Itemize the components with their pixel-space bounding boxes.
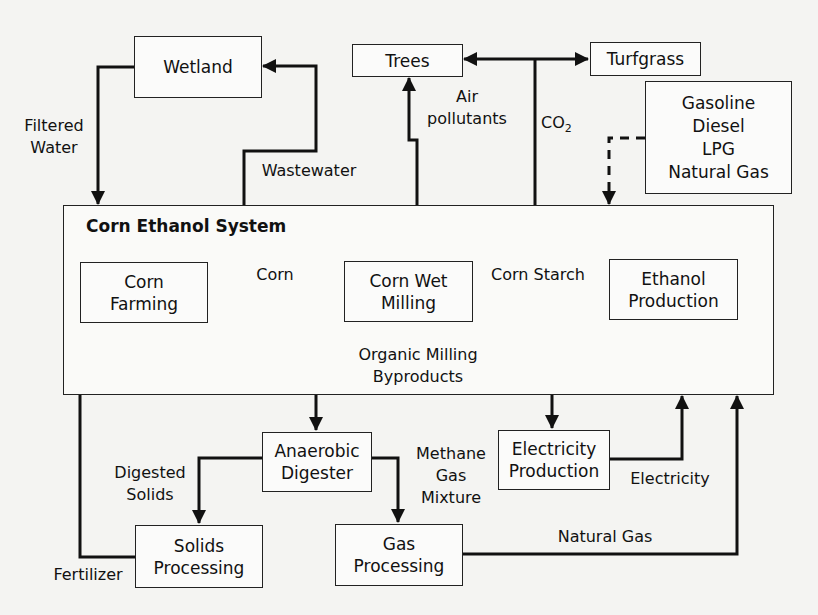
edge-label-filtered-water: Filtered Water [18, 115, 90, 159]
edge-label-co2: CO2 [541, 112, 581, 140]
node-ethanol-production: Ethanol Production [609, 259, 738, 320]
edge-label-corn: Corn [245, 264, 305, 286]
edge-label-natural-gas: Natural Gas [550, 526, 660, 548]
edge-label-air-pollutants: Air pollutants [417, 86, 517, 130]
node-gas-processing: Gas Processing [335, 524, 463, 586]
node-fuels: Gasoline Diesel LPG Natural Gas [645, 81, 792, 194]
node-turfgrass: Turfgrass [590, 42, 701, 76]
node-trees: Trees [352, 44, 463, 77]
edge-label-fertilizer: Fertilizer [48, 564, 128, 586]
edge-label-organic-milling-byproducts: Organic Milling Byproducts [348, 344, 488, 388]
edge-label-digested-solids: Digested Solids [105, 462, 195, 506]
node-corn-wet-milling: Corn Wet Milling [344, 261, 473, 322]
edge-label-corn-starch: Corn Starch [478, 264, 598, 286]
node-corn-farming: Corn Farming [80, 262, 208, 323]
edge-label-electricity: Electricity [620, 468, 720, 490]
node-solids-processing: Solids Processing [135, 525, 263, 588]
edge-label-wastewater: Wastewater [254, 160, 364, 182]
system-title: Corn Ethanol System [86, 216, 286, 236]
node-wetland: Wetland [134, 36, 262, 98]
co2-text: CO [541, 113, 565, 132]
co2-subscript: 2 [565, 122, 572, 135]
edge-label-methane-gas-mixture: Methane Gas Mixture [408, 443, 494, 509]
node-electricity-production: Electricity Production [498, 430, 610, 490]
node-anaerobic-digester: Anaerobic Digester [262, 432, 372, 492]
